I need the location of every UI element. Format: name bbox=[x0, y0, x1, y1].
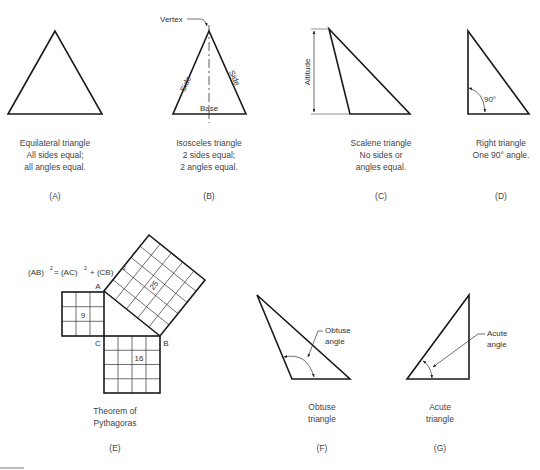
caption-f-line1: Obtuse bbox=[308, 402, 336, 412]
right-triangle-shape bbox=[468, 31, 529, 114]
figure-c-scalene: Altitude Scalene triangle No sides or an… bbox=[303, 29, 412, 201]
corner-rule bbox=[0, 467, 24, 469]
figure-g-acute: Acute angle Acute triangle (G) bbox=[407, 295, 508, 453]
vertex-label: Vertex bbox=[160, 15, 183, 24]
altitude-label: Altitude bbox=[303, 58, 312, 85]
figure-label-g: (G) bbox=[434, 443, 446, 453]
figure-f-obtuse: Obtuse angle Obtuse triangle (F) bbox=[257, 295, 351, 453]
acute-angle-label-line1: Acute bbox=[487, 329, 508, 338]
caption-d-line1: Right triangle bbox=[476, 138, 526, 148]
caption-f-line2: triangle bbox=[308, 414, 336, 424]
right-angle-arc bbox=[469, 88, 485, 112]
square-cb-value: 16 bbox=[135, 354, 144, 363]
equation-ab: (AB) bbox=[28, 268, 44, 277]
caption-c-line3: angles equal. bbox=[356, 162, 407, 172]
caption-c-line1: Scalene triangle bbox=[351, 138, 412, 148]
caption-b-line3: 2 angles equal. bbox=[180, 162, 238, 172]
square-ab-25: 25 bbox=[104, 235, 205, 336]
point-a-label: A bbox=[95, 282, 101, 291]
figure-label-b: (B) bbox=[203, 191, 215, 201]
side-left-label: Side bbox=[178, 74, 193, 93]
acute-angle-label-line2: angle bbox=[487, 340, 507, 349]
caption-c-line2: No sides or bbox=[360, 150, 403, 160]
caption-b-line2: 2 sides equal; bbox=[183, 150, 235, 160]
figure-label-e: (E) bbox=[109, 443, 121, 453]
figure-label-a: (A) bbox=[49, 191, 61, 201]
obtuse-angle-label-line1: Obtuse bbox=[325, 326, 351, 335]
right-angle-label: 90° bbox=[484, 95, 496, 104]
figure-b-isosceles: Vertex Side Side Base Isosceles triangle… bbox=[160, 15, 246, 201]
acute-angle-arc bbox=[423, 361, 432, 378]
caption-e-line1: Theorem of bbox=[93, 406, 137, 416]
caption-e-line2: Pythagoras bbox=[94, 418, 137, 428]
triangle-types-diagram: Equilateral triangle All sides equal; al… bbox=[0, 0, 540, 470]
equation-exp-2: 2 bbox=[84, 265, 87, 271]
caption-b-line1: Isosceles triangle bbox=[176, 138, 242, 148]
figure-e-pythagoras: (AB) 2 = (AC) 2 + (CB) 2 9 16 bbox=[28, 235, 205, 453]
figure-label-f: (F) bbox=[317, 443, 328, 453]
caption-a-line2: All sides equal; bbox=[26, 150, 83, 160]
figure-label-c: (C) bbox=[375, 191, 387, 201]
caption-a-line3: all angles equal. bbox=[24, 162, 85, 172]
pythagoras-equation: (AB) 2 = (AC) 2 + (CB) 2 bbox=[28, 265, 126, 277]
equation-exp-1: 2 bbox=[50, 265, 53, 271]
vertex-leader-arrow bbox=[187, 19, 207, 26]
obtuse-angle-arc bbox=[284, 356, 314, 377]
acute-angle-leader bbox=[433, 334, 485, 367]
square-ac-value: 9 bbox=[81, 311, 86, 320]
equilateral-triangle-shape bbox=[8, 31, 102, 114]
figure-a-equilateral: Equilateral triangle All sides equal; al… bbox=[8, 31, 102, 201]
caption-g-line2: triangle bbox=[426, 414, 454, 424]
side-right-label: Side bbox=[227, 69, 242, 88]
caption-d-line2: One 90° angle. bbox=[473, 150, 530, 160]
obtuse-angle-label-line2: angle bbox=[325, 337, 345, 346]
equation-ac: = (AC) bbox=[54, 268, 78, 277]
square-ac-9: 9 bbox=[62, 292, 104, 336]
figure-d-right: 90° Right triangle One 90° angle. (D) bbox=[468, 31, 529, 201]
figure-label-d: (D) bbox=[495, 191, 507, 201]
caption-g-line1: Acute bbox=[429, 402, 451, 412]
point-b-label: B bbox=[163, 339, 168, 348]
square-cb-16: 16 bbox=[104, 336, 160, 393]
equation-cb: + (CB) bbox=[90, 268, 114, 277]
square-ab-value: 25 bbox=[148, 279, 161, 292]
acute-triangle-shape bbox=[407, 295, 469, 379]
caption-a-line1: Equilateral triangle bbox=[20, 138, 91, 148]
base-label: Base bbox=[200, 104, 219, 113]
scalene-triangle-shape bbox=[329, 29, 410, 114]
point-c-label: C bbox=[95, 339, 101, 348]
